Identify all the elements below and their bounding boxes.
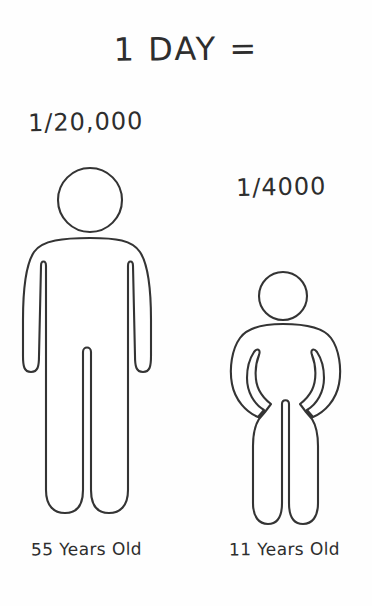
adult-body (23, 238, 151, 513)
ratio-label-child: 1/4000 (236, 172, 327, 202)
adult-person-icon (12, 160, 184, 535)
child-head (259, 272, 307, 320)
drawing-canvas: 1 DAY = 1/20,000 1/4000 55 Years Old 11 … (0, 0, 372, 606)
caption-child: 11 Years Old (229, 539, 340, 560)
page-title: 1 DAY = (0, 28, 372, 70)
caption-adult: 55 Years Old (31, 539, 142, 560)
adult-head (58, 168, 122, 232)
child-body (231, 324, 340, 524)
child-person-icon (226, 264, 350, 536)
ratio-label-adult: 1/20,000 (28, 107, 144, 137)
